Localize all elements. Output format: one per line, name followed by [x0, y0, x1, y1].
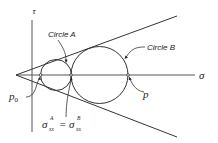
sigma-axis-label: σ: [199, 69, 205, 81]
point-p0: [39, 74, 42, 77]
tau-axis-label: τ: [33, 7, 37, 16]
equation-equals: =: [59, 118, 66, 130]
equation-rhs-sup: B: [77, 115, 81, 121]
circle-a-label: Circle A: [48, 30, 76, 39]
equation-lhs-sub: xx: [48, 126, 54, 132]
sigma-equality-equation: σ A xx = σ B xx: [42, 115, 81, 132]
mohr-circle-diagram: τ σ Circle A Circle B p p0 σ A xx = σ B …: [0, 0, 218, 143]
p-label: p: [142, 88, 149, 100]
circle-b-label: Circle B: [147, 43, 176, 52]
lower-failure-envelope: [16, 75, 177, 137]
diagram-canvas: τ σ Circle A Circle B p p0 σ A xx = σ B …: [0, 0, 218, 143]
equation-rhs-symbol: σ: [69, 118, 75, 130]
point-p: [127, 74, 130, 77]
circle-b-leader: [126, 47, 145, 57]
p-arrowhead-icon: [129, 77, 132, 81]
p0-label: p0: [8, 90, 19, 104]
equation-lhs-sup: A: [49, 115, 54, 121]
equation-lhs-symbol: σ: [42, 118, 48, 130]
p0-leader: [26, 78, 40, 97]
equation-rhs-sub: xx: [75, 126, 81, 132]
p-leader: [130, 79, 144, 92]
point-shared-sigma: [70, 74, 73, 77]
p0-subscript: 0: [15, 96, 19, 104]
